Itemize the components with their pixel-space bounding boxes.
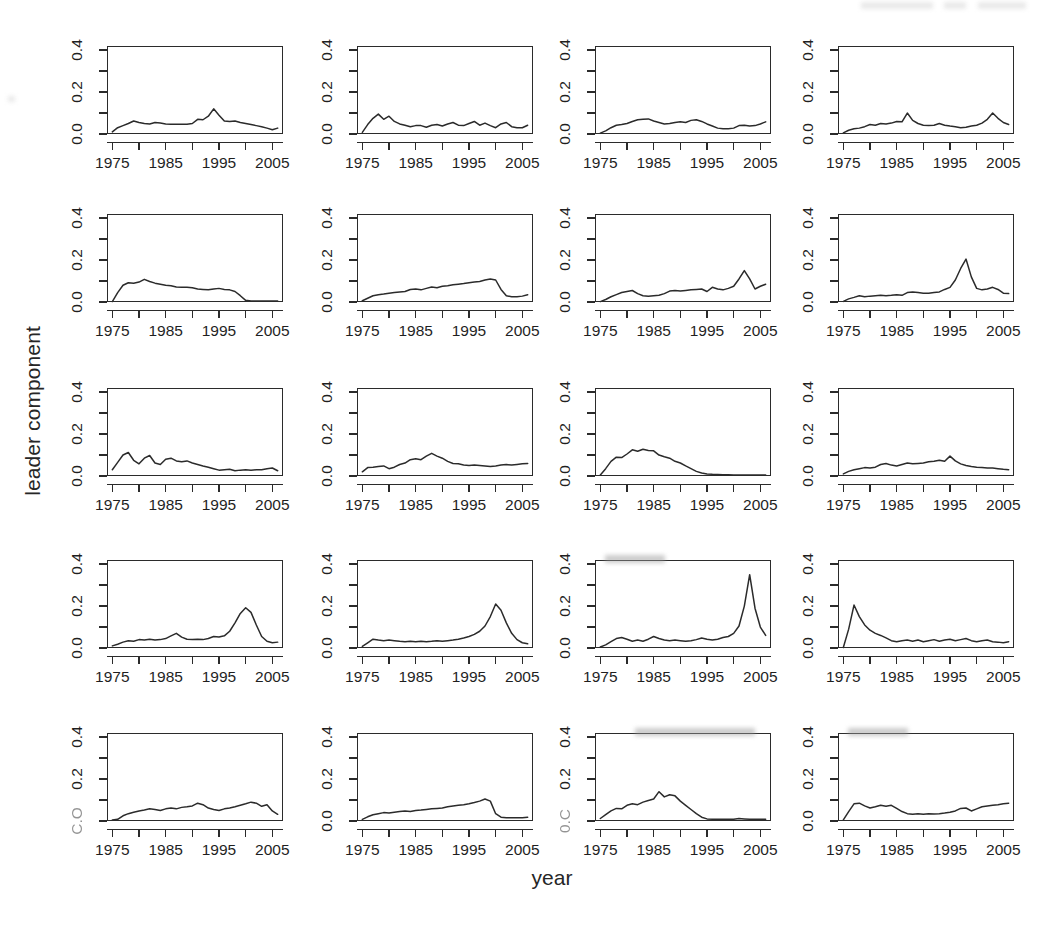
y-tick bbox=[830, 70, 838, 71]
y-tick bbox=[99, 301, 107, 302]
x-tick bbox=[388, 829, 389, 837]
y-tick bbox=[830, 91, 838, 92]
x-tick bbox=[760, 310, 761, 318]
y-tick bbox=[349, 70, 357, 71]
y-tick-label: 0.2 bbox=[68, 414, 86, 454]
x-tick-label: 1975 bbox=[570, 322, 630, 340]
x-tick bbox=[362, 142, 363, 150]
x-tick-label: 1975 bbox=[813, 322, 873, 340]
x-tick-label: 1995 bbox=[439, 154, 499, 172]
x-tick bbox=[245, 484, 246, 492]
x-tick bbox=[468, 829, 469, 837]
y-tick bbox=[349, 799, 357, 800]
y-tick bbox=[830, 238, 838, 239]
y-tick-label: 0.4 bbox=[68, 30, 86, 70]
series-line-panel-16 bbox=[838, 560, 1014, 648]
y-tick bbox=[349, 391, 357, 392]
x-tick-label: 1985 bbox=[867, 841, 927, 859]
x-axis-line bbox=[838, 484, 1014, 485]
x-tick bbox=[495, 656, 496, 664]
y-tick-label: 0.4 bbox=[318, 30, 336, 70]
x-axis-line bbox=[357, 829, 533, 830]
y-tick-label: 0.2 bbox=[556, 414, 574, 454]
x-tick bbox=[976, 829, 977, 837]
x-tick bbox=[218, 656, 219, 664]
x-tick bbox=[733, 142, 734, 150]
x-tick bbox=[843, 142, 844, 150]
x-tick bbox=[415, 829, 416, 837]
x-tick bbox=[415, 484, 416, 492]
x-tick bbox=[468, 310, 469, 318]
x-tick bbox=[165, 310, 166, 318]
x-tick bbox=[165, 656, 166, 664]
y-tick bbox=[99, 391, 107, 392]
y-tick bbox=[830, 280, 838, 281]
x-tick bbox=[843, 310, 844, 318]
x-axis-line bbox=[595, 142, 771, 143]
y-tick bbox=[349, 301, 357, 302]
x-tick bbox=[733, 656, 734, 664]
y-tick-label: 0.2 bbox=[318, 414, 336, 454]
y-tick bbox=[830, 778, 838, 779]
x-tick bbox=[600, 310, 601, 318]
x-tick bbox=[388, 310, 389, 318]
x-tick bbox=[896, 829, 897, 837]
x-tick bbox=[218, 310, 219, 318]
y-tick-label: 0.0 bbox=[318, 114, 336, 154]
x-tick bbox=[245, 142, 246, 150]
chart-panel-18: 0.00.20.41975198519952005 bbox=[357, 733, 533, 821]
x-tick-label: 2005 bbox=[973, 496, 1033, 514]
x-axis-line bbox=[595, 484, 771, 485]
y-tick bbox=[349, 91, 357, 92]
x-tick-label: 1985 bbox=[386, 322, 446, 340]
y-tick bbox=[587, 280, 595, 281]
y-tick-label: 0.0 bbox=[556, 456, 574, 496]
x-tick bbox=[362, 656, 363, 664]
y-tick-label: C.O bbox=[68, 801, 86, 841]
y-tick-label: 0.2 bbox=[68, 759, 86, 799]
chart-panel-7: 0.00.20.41975198519952005 bbox=[595, 214, 771, 302]
y-tick bbox=[99, 778, 107, 779]
x-tick bbox=[896, 484, 897, 492]
x-tick-label: 1985 bbox=[386, 841, 446, 859]
x-tick bbox=[653, 829, 654, 837]
y-tick bbox=[830, 799, 838, 800]
y-tick-label: 0.2 bbox=[556, 586, 574, 626]
x-tick-label: 2005 bbox=[492, 668, 552, 686]
x-axis-line bbox=[107, 829, 283, 830]
x-tick-label: 2005 bbox=[730, 322, 790, 340]
chart-panel-16: 0.00.20.41975198519952005 bbox=[838, 560, 1014, 648]
x-tick bbox=[495, 484, 496, 492]
y-tick bbox=[349, 49, 357, 50]
x-tick-label: 2005 bbox=[492, 154, 552, 172]
x-tick bbox=[760, 829, 761, 837]
x-tick-label: 2005 bbox=[242, 841, 302, 859]
y-tick bbox=[587, 91, 595, 92]
series-line-panel-13 bbox=[107, 560, 283, 648]
y-tick bbox=[99, 454, 107, 455]
x-tick-label: 1985 bbox=[624, 496, 684, 514]
series-line-panel-4 bbox=[838, 46, 1014, 134]
y-tick bbox=[349, 647, 357, 648]
x-tick-label: 1995 bbox=[677, 496, 737, 514]
y-tick-label: 0.0 bbox=[799, 628, 817, 668]
x-tick-label: 1995 bbox=[677, 841, 737, 859]
series-line-panel-1 bbox=[107, 46, 283, 134]
chart-panel-1: 0.00.20.41975198519952005 bbox=[107, 46, 283, 134]
x-tick bbox=[192, 142, 193, 150]
y-tick-label: 0.0 bbox=[318, 456, 336, 496]
x-tick-label: 1985 bbox=[624, 668, 684, 686]
x-tick bbox=[415, 142, 416, 150]
x-tick bbox=[843, 656, 844, 664]
x-tick bbox=[976, 310, 977, 318]
y-tick bbox=[830, 584, 838, 585]
x-axis-line bbox=[838, 656, 1014, 657]
y-tick bbox=[99, 112, 107, 113]
x-tick bbox=[923, 656, 924, 664]
x-tick bbox=[165, 829, 166, 837]
x-tick bbox=[706, 142, 707, 150]
x-tick bbox=[112, 829, 113, 837]
x-tick bbox=[706, 656, 707, 664]
x-tick bbox=[949, 829, 950, 837]
x-tick bbox=[388, 142, 389, 150]
